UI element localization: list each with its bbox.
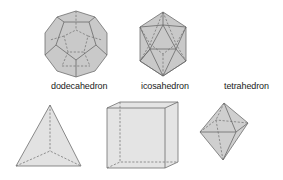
cube-shape xyxy=(107,102,178,168)
label-icosahedron: icosahedron xyxy=(141,81,189,91)
tetrahedron-shape xyxy=(16,105,81,166)
icosahedron-shape xyxy=(140,12,186,76)
label-tetrahedron: tetrahedron xyxy=(224,81,269,91)
octahedron-shape xyxy=(200,103,248,160)
label-dodecahedron: dodecahedron xyxy=(51,81,107,91)
dodecahedron-shape xyxy=(45,11,107,77)
